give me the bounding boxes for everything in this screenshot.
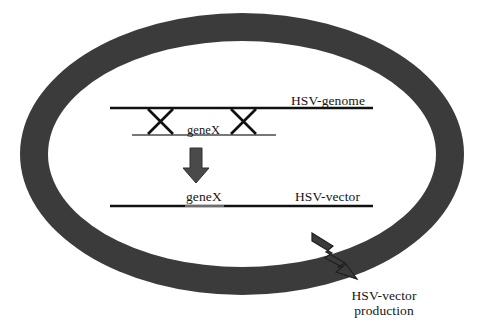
hsv-genome-label: HSV-genome: [291, 93, 365, 109]
production-caption-line-2: production: [336, 303, 432, 318]
down-arrow-icon: [183, 148, 209, 183]
gene-x-vector-label: geneX: [186, 189, 222, 205]
crossover-right-icon: [231, 109, 256, 134]
hsv-vector-label: HSV-vector: [295, 189, 360, 205]
recombination-layer: [0, 0, 483, 333]
hsv-vector-diagram: HSV-genome geneX geneX HSV-vector HSV-ve…: [0, 0, 483, 333]
gene-x-donor-label: geneX: [187, 123, 220, 138]
lightning-arrow-icon: [312, 233, 357, 279]
production-caption-line-1: HSV-vector: [336, 288, 432, 303]
crossover-left-icon: [148, 109, 173, 134]
hsv-vector-production-caption: HSV-vector production: [336, 288, 432, 318]
